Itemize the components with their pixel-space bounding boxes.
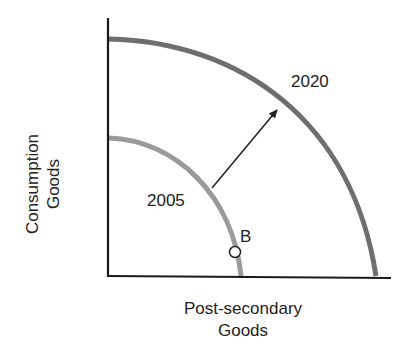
x-axis-title: Post-secondary Goods — [184, 298, 302, 342]
point-b-marker — [230, 247, 241, 258]
x-axis — [107, 276, 391, 278]
y-axis-title-line2: Goods — [43, 134, 64, 234]
x-axis-title-line1: Post-secondary — [184, 298, 302, 320]
y-axis-title: Consumption Goods — [22, 134, 64, 234]
y-axis-title-line1: Consumption — [22, 134, 43, 234]
label-2005: 2005 — [147, 192, 185, 209]
label-point-b: B — [240, 228, 251, 245]
label-2020: 2020 — [291, 73, 329, 90]
ppf-chart: 2020 2005 B Consumption Goods Post-secon… — [0, 0, 408, 353]
shift-arrow — [212, 110, 277, 188]
x-axis-title-line2: Goods — [184, 320, 302, 342]
